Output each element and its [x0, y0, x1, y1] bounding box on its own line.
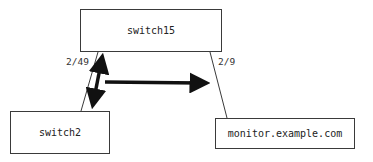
traffic-mirror-arrow [105, 82, 200, 83]
port-label-right: 2/9 [218, 56, 235, 67]
node-label: switch15 [127, 25, 175, 36]
node-switch15[interactable]: switch15 [80, 9, 222, 52]
node-label: switch2 [39, 127, 81, 138]
node-switch2[interactable]: switch2 [10, 111, 110, 154]
port-label-left: 2/49 [66, 56, 89, 67]
node-monitor[interactable]: monitor.example.com [215, 118, 355, 149]
bidirectional-link-arrow [94, 63, 101, 99]
node-label: monitor.example.com [228, 128, 342, 139]
